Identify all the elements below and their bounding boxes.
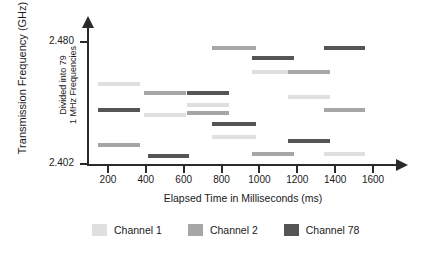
x-axis-arrow-icon bbox=[396, 159, 408, 171]
hop-segment bbox=[288, 139, 330, 143]
legend-label: Channel 78 bbox=[306, 224, 360, 236]
x-tick-label-200: 200 bbox=[88, 175, 128, 185]
x-tick-label-1000: 1000 bbox=[239, 175, 279, 185]
y-tick-label-2.480: 2.480 bbox=[30, 36, 74, 46]
hop-segment bbox=[324, 46, 366, 50]
legend-label: Channel 1 bbox=[114, 224, 162, 236]
hop-segment bbox=[212, 122, 256, 126]
hop-segment bbox=[252, 152, 294, 156]
x-tick-label-600: 600 bbox=[164, 175, 204, 185]
x-tick-200 bbox=[107, 166, 109, 173]
y-tick-2.402 bbox=[80, 163, 89, 165]
hop-segment bbox=[98, 82, 140, 86]
x-tick-label-400: 400 bbox=[126, 175, 166, 185]
x-tick-label-1600: 1600 bbox=[353, 175, 393, 185]
x-tick-1200 bbox=[296, 166, 298, 173]
x-axis-title: Elapsed Time in Milliseconds (ms) bbox=[87, 192, 399, 204]
x-axis-line bbox=[87, 164, 399, 166]
x-tick-400 bbox=[145, 166, 147, 173]
legend-swatch bbox=[92, 224, 107, 236]
hop-segment bbox=[148, 154, 190, 158]
hop-segment bbox=[98, 143, 140, 147]
x-tick-800 bbox=[221, 166, 223, 173]
hop-segment bbox=[187, 103, 229, 107]
legend-item: Channel 2 bbox=[188, 224, 258, 236]
hop-segment bbox=[98, 108, 140, 112]
legend-label: Channel 2 bbox=[210, 224, 258, 236]
x-tick-1400 bbox=[334, 166, 336, 173]
x-tick-label-800: 800 bbox=[202, 175, 242, 185]
legend-item: Channel 78 bbox=[284, 224, 360, 236]
y-tick-2.480 bbox=[80, 41, 89, 43]
frequency-hopping-chart: Transmission Frequency (GHz) Divided int… bbox=[0, 0, 429, 253]
x-tick-1000 bbox=[258, 166, 260, 173]
hop-segment bbox=[288, 95, 330, 99]
y-axis-line bbox=[87, 26, 89, 166]
hop-segment bbox=[252, 56, 294, 60]
x-tick-label-1400: 1400 bbox=[315, 175, 355, 185]
hop-segment bbox=[187, 91, 229, 95]
x-tick-1600 bbox=[372, 166, 374, 173]
hop-segment bbox=[212, 46, 256, 50]
hop-segment bbox=[324, 108, 366, 112]
hop-segment bbox=[144, 113, 186, 117]
y-axis-title: Transmission Frequency (GHz) bbox=[16, 0, 28, 158]
hop-segment bbox=[187, 111, 229, 115]
chart-legend: Channel 1Channel 2Channel 78 bbox=[92, 224, 359, 236]
x-tick-label-1200: 1200 bbox=[277, 175, 317, 185]
hop-segment bbox=[324, 152, 366, 156]
hop-segment bbox=[144, 91, 186, 95]
y-axis-arrow-icon bbox=[82, 16, 94, 28]
hop-segment bbox=[212, 135, 256, 139]
legend-swatch bbox=[188, 224, 203, 236]
y-tick-label-2.402: 2.402 bbox=[30, 158, 74, 168]
legend-swatch bbox=[284, 224, 299, 236]
x-tick-600 bbox=[183, 166, 185, 173]
y-axis-subtitle-line1: Divided into 79 bbox=[58, 55, 68, 115]
legend-item: Channel 1 bbox=[92, 224, 162, 236]
hop-segment bbox=[288, 70, 330, 74]
